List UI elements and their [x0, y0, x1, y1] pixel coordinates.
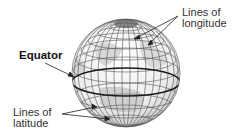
- latitude-label: Lines of latitude: [13, 107, 52, 129]
- longitude-label: Lines of longitude: [182, 7, 227, 29]
- latitude-label-line2: latitude: [13, 118, 52, 129]
- longitude-label-line2: longitude: [182, 18, 227, 29]
- globe: [72, 19, 180, 129]
- equator-label: Equator: [19, 50, 62, 61]
